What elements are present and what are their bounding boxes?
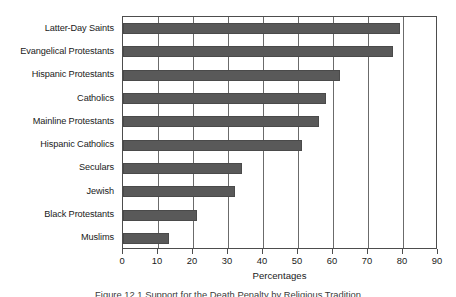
x-tick-70 [367, 249, 368, 254]
x-tick-40 [262, 249, 263, 254]
x-tick-label-20: 20 [177, 255, 207, 267]
bars [123, 17, 436, 248]
category-axis-labels: Latter-Day SaintsEvangelical Protestants… [0, 16, 118, 249]
x-tick-label-80: 80 [387, 255, 417, 267]
bar-hispanic-catholics [123, 140, 302, 151]
x-tick-20 [192, 249, 193, 254]
x-tick-80 [402, 249, 403, 254]
x-tick-label-40: 40 [247, 255, 277, 267]
category-label-jewish: Jewish [0, 186, 114, 196]
category-label-mainline-protestants: Mainline Protestants [0, 116, 114, 126]
x-tick-label-10: 10 [142, 255, 172, 267]
bar-catholics [123, 93, 326, 104]
x-tick-label-70: 70 [352, 255, 382, 267]
bar-latter-day-saints [123, 23, 400, 34]
x-tick-0 [122, 249, 123, 254]
figure-caption: Figure 12.1 Support for the Death Penalt… [0, 289, 456, 297]
category-label-black-protestants: Black Protestants [0, 209, 114, 219]
plot-area [122, 16, 437, 249]
bar-black-protestants [123, 210, 197, 221]
category-label-seculars: Seculars [0, 162, 114, 172]
x-tick-60 [332, 249, 333, 254]
bar-hispanic-protestants [123, 70, 340, 81]
category-label-hispanic-protestants: Hispanic Protestants [0, 69, 114, 79]
x-tick-30 [227, 249, 228, 254]
x-tick-label-30: 30 [212, 255, 242, 267]
x-tick-50 [297, 249, 298, 254]
x-tick-label-50: 50 [282, 255, 312, 267]
x-axis-title: Percentages [122, 270, 437, 282]
x-axis-tick-labels: 0102030405060708090 [122, 255, 437, 269]
bar-muslims [123, 233, 169, 244]
bar-mainline-protestants [123, 116, 319, 127]
category-label-evangelical-protestants: Evangelical Protestants [0, 46, 114, 56]
category-label-muslims: Muslims [0, 232, 114, 242]
x-tick-label-0: 0 [107, 255, 137, 267]
x-tick-label-90: 90 [422, 255, 452, 267]
bar-jewish [123, 186, 235, 197]
bar-evangelical-protestants [123, 46, 393, 57]
bar-chart: Latter-Day SaintsEvangelical Protestants… [0, 0, 456, 297]
category-label-catholics: Catholics [0, 93, 114, 103]
category-label-latter-day-saints: Latter-Day Saints [0, 23, 114, 33]
x-tick-label-60: 60 [317, 255, 347, 267]
bar-seculars [123, 163, 242, 174]
x-tick-90 [437, 249, 438, 254]
category-label-hispanic-catholics: Hispanic Catholics [0, 139, 114, 149]
x-tick-10 [157, 249, 158, 254]
